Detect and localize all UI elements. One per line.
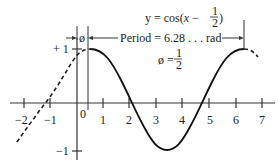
equation-label: y = cos(x − 1 2 ) [145, 4, 223, 30]
x-tick-label: 0 [80, 107, 86, 121]
arrow-head-icon [72, 36, 77, 40]
x-tick-label: 1 [100, 113, 106, 127]
x-tick-label: 3 [153, 113, 159, 127]
svg-text:ø =: ø = [158, 53, 174, 67]
x-tick-label: 4 [179, 113, 185, 127]
phase-value-label: ø = 1 2 [158, 46, 182, 72]
x-tick-label: −2 [15, 113, 28, 127]
arrow-head-icon [239, 36, 244, 40]
phase-symbol: ø [79, 31, 85, 45]
x-tick-label: 5 [207, 113, 213, 127]
dashed-curve-left [17, 49, 90, 142]
x-tick-label: 6 [233, 113, 239, 127]
dashed-curve-right [244, 49, 258, 57]
x-tick-label: 7 [259, 113, 265, 127]
x-tick-label: −1 [44, 113, 57, 127]
svg-text:y = cos(x −: y = cos(x − [145, 11, 199, 25]
period-label: Period = 6.28 . . . rad [120, 31, 221, 45]
svg-text:2: 2 [212, 16, 218, 30]
y-tick-label: −1 [56, 144, 69, 158]
x-tick-label: 2 [126, 113, 132, 127]
svg-text:): ) [219, 11, 223, 25]
svg-text:2: 2 [176, 58, 182, 72]
cosine-chart: −2 −1 0 1 2 3 4 5 6 7 + 1 −1 ø y = cos(x… [0, 0, 278, 162]
y-tick-label: + 1 [53, 42, 69, 56]
arrow-head-icon [88, 36, 93, 40]
